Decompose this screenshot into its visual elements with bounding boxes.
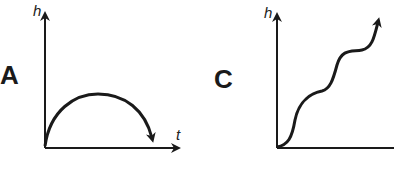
plot-c <box>277 17 394 148</box>
curve-c-wavy <box>277 22 378 147</box>
curve-a-arch <box>45 94 152 146</box>
diagram-canvas <box>0 0 394 181</box>
plot-a <box>45 16 176 148</box>
